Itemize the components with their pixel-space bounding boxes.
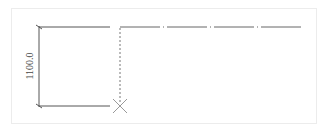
dimension-label: 1100.0 <box>24 52 35 79</box>
cad-drawing: 1100.0 <box>0 0 328 135</box>
